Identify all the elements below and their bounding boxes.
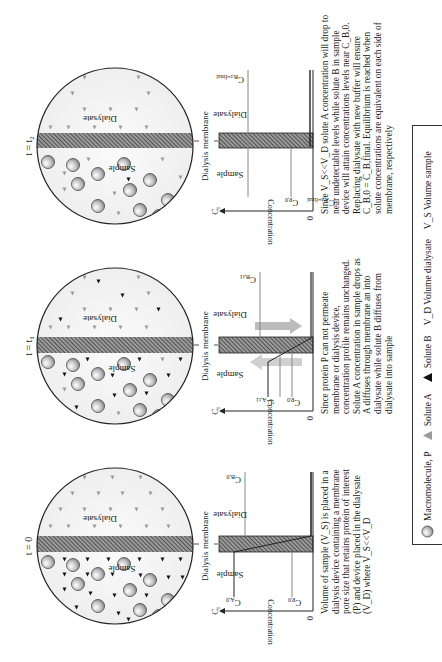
membrane-band	[37, 536, 193, 552]
right-region-label: Dialysate	[213, 110, 247, 120]
sample-label: Sample	[108, 164, 135, 174]
black-triangle-icon	[422, 372, 433, 383]
solute-a-arrow	[250, 354, 302, 370]
ci-symbol: Ci	[210, 207, 221, 215]
concentration-graph: 0 Ci Concentration Sample Dialysate CA,0…	[210, 472, 315, 645]
legend: Macromolecule, P Solute A Solute B V_D V…	[412, 125, 442, 545]
dialysate-label: Dialysate	[83, 314, 117, 324]
dialysate-label: Dialysate	[83, 114, 117, 124]
legend-label: Macromolecule, P	[423, 451, 433, 521]
left-region-label: Sample	[216, 570, 243, 580]
ci-symbol: Ci	[210, 407, 221, 415]
description-t0: Volume of sample (V_S) is placed in a di…	[320, 466, 373, 614]
ci-symbol: Ci	[210, 607, 221, 615]
y-axis-label: Concentration	[266, 199, 275, 244]
legend-label: V_D Volume dialysate	[423, 239, 433, 325]
dialysate-label: Dialysate	[83, 514, 117, 524]
legend-item-solute-b: Solute B	[422, 335, 433, 383]
panel-t1: t = t1	[23, 268, 315, 445]
origin-label: 0	[305, 616, 315, 621]
dialysis-device-circle	[37, 68, 193, 224]
gray-triangle-icon	[422, 430, 433, 441]
panel-t2: t = t2	[23, 68, 335, 245]
membrane-label: Dialysis membrane	[200, 511, 210, 581]
label-cp0: CP,0	[288, 597, 301, 608]
label-cb-final: CB,t=final	[216, 74, 244, 85]
concentration-graph: 0 Ci Concentration Sample Dialysate CA,t…	[210, 272, 315, 445]
legend-label: Solute B	[423, 335, 433, 368]
label-cb0: CB,0	[226, 474, 241, 485]
macromolecule-icon	[421, 525, 434, 538]
membrane-label: Dialysis membrane	[200, 111, 210, 181]
legend-item-macromolecule: Macromolecule, P	[421, 451, 434, 538]
legend-item-volume-sample: V_S Volume sample	[423, 151, 433, 229]
origin-label: 0	[305, 416, 315, 421]
description-t1: Since protein P can not permeate membran…	[320, 254, 394, 414]
label-cat1: CA,t1	[256, 397, 273, 408]
dialysis-device-circle	[37, 468, 193, 624]
label-ca0: CA,0	[226, 597, 241, 608]
right-region-label: Dialysate	[213, 310, 247, 320]
membrane-label: Dialysis membrane	[200, 311, 210, 381]
concentration-graph: 0 Ci Concentration Sample Dialysate CP,0…	[210, 70, 335, 245]
legend-label: V_S Volume sample	[423, 151, 433, 229]
legend-label: Solute A	[423, 393, 433, 426]
label-cp0: CP,0	[285, 197, 298, 208]
solute-b-arrow	[255, 318, 302, 334]
legend-item-solute-a: Solute A	[422, 393, 433, 441]
y-axis-label: Concentration	[266, 599, 275, 644]
sample-label: Sample	[108, 564, 135, 574]
label-cp0: CP,0	[287, 397, 300, 408]
time-label: t = t2	[23, 136, 36, 156]
time-label: t = t1	[23, 336, 36, 356]
left-region-label: Sample	[216, 370, 243, 380]
membrane-band	[37, 133, 193, 148]
dialysis-device-circle	[37, 268, 193, 424]
left-region-label: Sample	[216, 170, 243, 180]
panel-t0: t = 0	[23, 468, 315, 645]
legend-item-volume-dialysate: V_D Volume dialysate	[423, 239, 433, 325]
membrane-band	[219, 133, 313, 148]
description-t2: Since V_S<<V_D solute A concentration wi…	[320, 14, 394, 214]
label-cbt1: CB,t1	[240, 274, 256, 285]
origin-label: 0	[305, 216, 315, 221]
membrane-band	[37, 337, 193, 353]
right-region-label: Dialysate	[213, 510, 247, 520]
sample-label: Sample	[108, 364, 135, 374]
time-label: t = 0	[23, 537, 34, 555]
